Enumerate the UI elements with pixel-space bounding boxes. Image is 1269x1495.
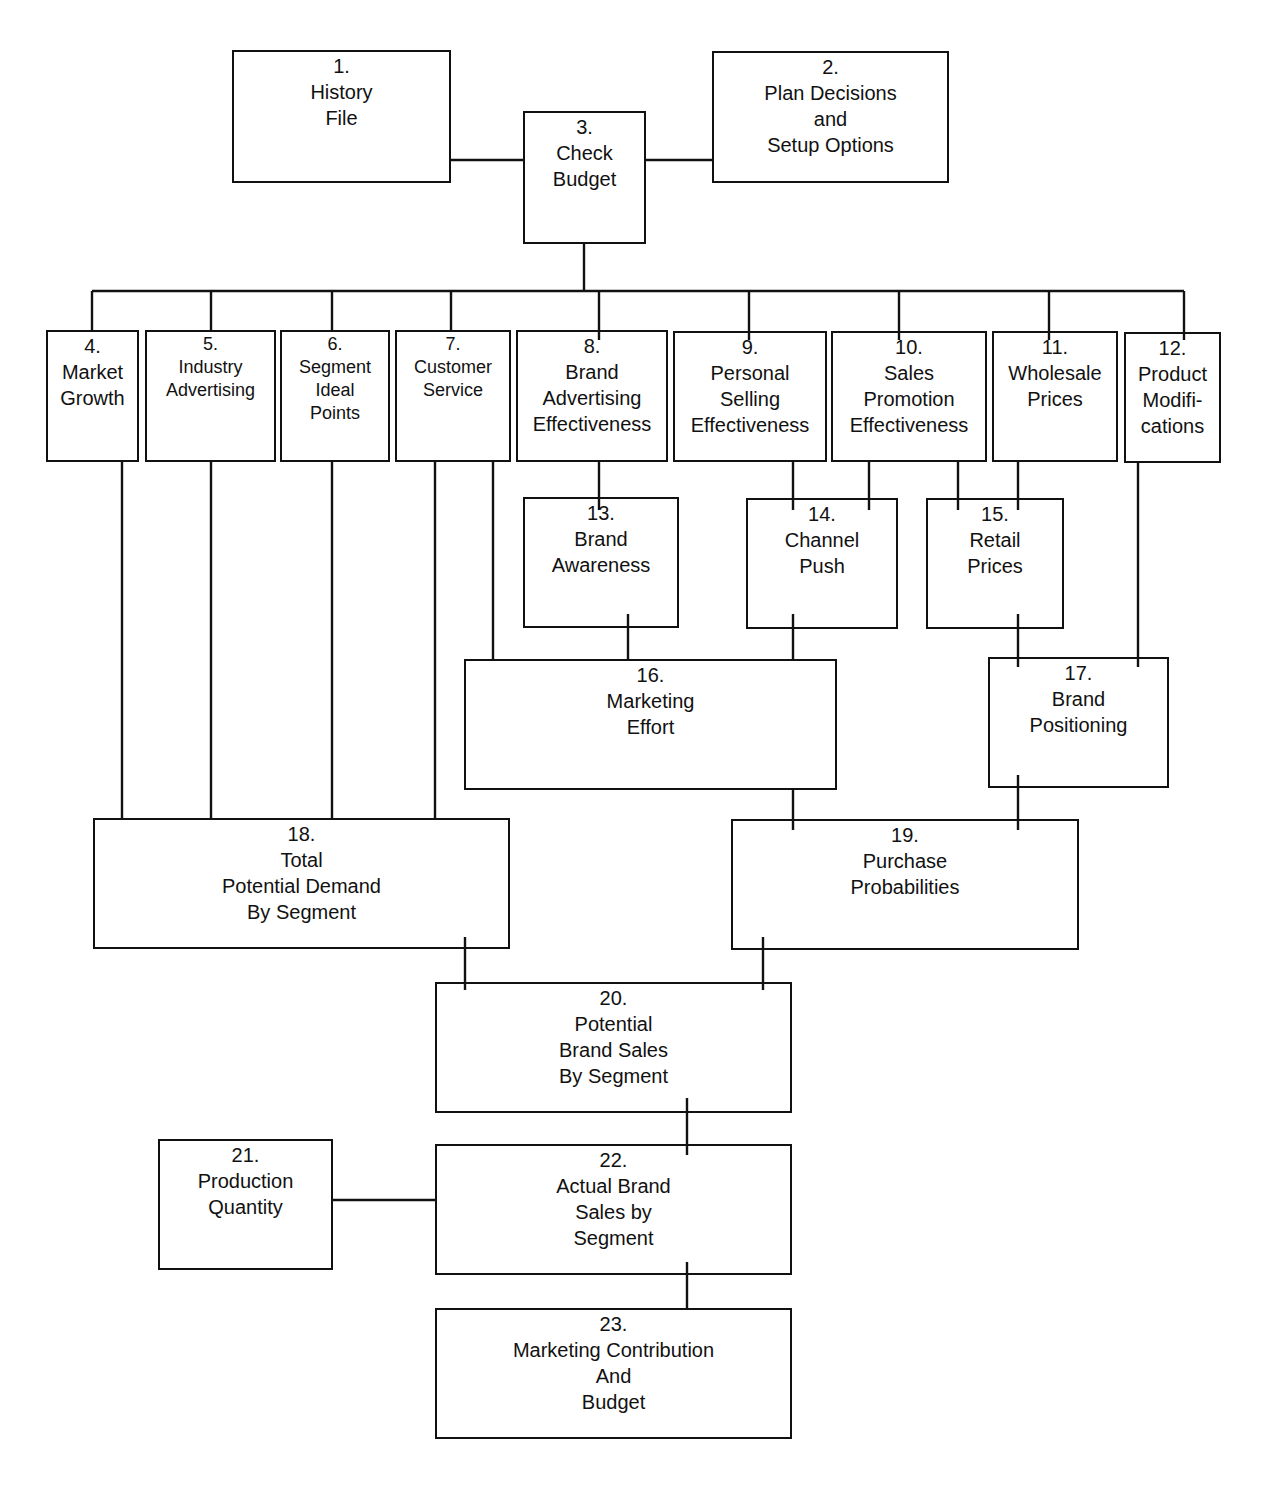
flowchart-node-14: 14. Channel Push bbox=[746, 498, 898, 629]
node-number: 3. bbox=[525, 114, 644, 140]
flowchart-node-18: 18. Total Potential Demand By Segment bbox=[93, 818, 510, 949]
flowchart-node-19: 19. Purchase Probabilities bbox=[731, 819, 1079, 950]
node-label: Check Budget bbox=[525, 140, 644, 192]
node-number: 15. bbox=[928, 501, 1062, 527]
node-number: 11. bbox=[994, 334, 1116, 360]
node-label: Brand Positioning bbox=[990, 686, 1167, 738]
node-number: 22. bbox=[437, 1147, 790, 1173]
node-number: 12. bbox=[1126, 335, 1219, 361]
node-label: Personal Selling Effectiveness bbox=[675, 360, 825, 438]
node-label: Market Growth bbox=[48, 359, 137, 411]
node-number: 16. bbox=[466, 662, 835, 688]
node-label: Sales Promotion Effectiveness bbox=[833, 360, 985, 438]
node-label: Industry Advertising bbox=[147, 356, 274, 402]
node-number: 10. bbox=[833, 334, 985, 360]
flowchart-node-23: 23. Marketing Contribution And Budget bbox=[435, 1308, 792, 1439]
flowchart-node-5: 5. Industry Advertising bbox=[145, 330, 276, 462]
flowchart-node-17: 17. Brand Positioning bbox=[988, 657, 1169, 788]
node-label: Plan Decisions and Setup Options bbox=[714, 80, 947, 158]
flowchart-node-16: 16. Marketing Effort bbox=[464, 659, 837, 790]
node-label: Channel Push bbox=[748, 527, 896, 579]
node-number: 4. bbox=[48, 333, 137, 359]
node-number: 19. bbox=[733, 822, 1077, 848]
node-label: Marketing Contribution And Budget bbox=[437, 1337, 790, 1415]
flowchart-node-8: 8. Brand Advertising Effectiveness bbox=[516, 330, 668, 462]
flowchart-node-12: 12. Product Modifi- cations bbox=[1124, 332, 1221, 463]
node-number: 1. bbox=[234, 53, 449, 79]
flowchart-node-7: 7. Customer Service bbox=[395, 330, 511, 462]
node-number: 6. bbox=[282, 333, 388, 356]
node-label: Purchase Probabilities bbox=[733, 848, 1077, 900]
flowchart-node-20: 20. Potential Brand Sales By Segment bbox=[435, 982, 792, 1113]
node-number: 23. bbox=[437, 1311, 790, 1337]
flowchart-node-1: 1. History File bbox=[232, 50, 451, 183]
node-number: 8. bbox=[518, 333, 666, 359]
node-label: Production Quantity bbox=[160, 1168, 331, 1220]
node-number: 14. bbox=[748, 501, 896, 527]
flowchart-node-3: 3. Check Budget bbox=[523, 111, 646, 244]
node-label: Segment Ideal Points bbox=[282, 356, 388, 425]
node-number: 20. bbox=[437, 985, 790, 1011]
flowchart-node-10: 10. Sales Promotion Effectiveness bbox=[831, 331, 987, 462]
node-number: 18. bbox=[95, 821, 508, 847]
node-label: Retail Prices bbox=[928, 527, 1062, 579]
node-number: 7. bbox=[397, 333, 509, 356]
node-number: 21. bbox=[160, 1142, 331, 1168]
flowchart-node-9: 9. Personal Selling Effectiveness bbox=[673, 331, 827, 462]
node-label: Product Modifi- cations bbox=[1126, 361, 1219, 439]
node-label: Brand Advertising Effectiveness bbox=[518, 359, 666, 437]
node-label: Potential Brand Sales By Segment bbox=[437, 1011, 790, 1089]
flowchart-node-21: 21. Production Quantity bbox=[158, 1139, 333, 1270]
node-number: 13. bbox=[525, 500, 677, 526]
node-label: Marketing Effort bbox=[466, 688, 835, 740]
node-number: 2. bbox=[714, 54, 947, 80]
flowchart-node-15: 15. Retail Prices bbox=[926, 498, 1064, 629]
node-label: History File bbox=[234, 79, 449, 131]
node-label: Customer Service bbox=[397, 356, 509, 402]
node-number: 5. bbox=[147, 333, 274, 356]
node-label: Total Potential Demand By Segment bbox=[95, 847, 508, 925]
node-number: 17. bbox=[990, 660, 1167, 686]
node-label: Actual Brand Sales by Segment bbox=[437, 1173, 790, 1251]
node-number: 9. bbox=[675, 334, 825, 360]
flowchart-canvas: 1. History File 2. Plan Decisions and Se… bbox=[0, 0, 1269, 1495]
node-label: Wholesale Prices bbox=[994, 360, 1116, 412]
flowchart-node-2: 2. Plan Decisions and Setup Options bbox=[712, 51, 949, 183]
flowchart-node-13: 13. Brand Awareness bbox=[523, 497, 679, 628]
flowchart-node-22: 22. Actual Brand Sales by Segment bbox=[435, 1144, 792, 1275]
node-label: Brand Awareness bbox=[525, 526, 677, 578]
flowchart-node-11: 11. Wholesale Prices bbox=[992, 331, 1118, 462]
flowchart-node-6: 6. Segment Ideal Points bbox=[280, 330, 390, 462]
flowchart-node-4: 4. Market Growth bbox=[46, 330, 139, 462]
